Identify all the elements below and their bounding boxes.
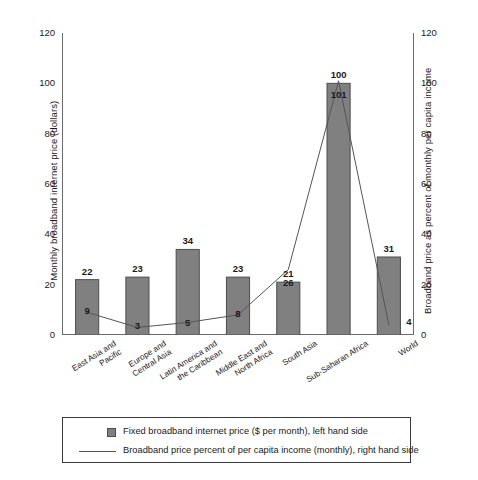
line-value-label: 101 <box>326 90 352 100</box>
line-value-label: 8 <box>225 309 251 319</box>
bar-value-label: 34 <box>168 236 208 246</box>
line-value-label: 4 <box>396 317 422 327</box>
y-axis-tick-label-left: 0 <box>50 330 55 340</box>
bar-value-label: 31 <box>369 244 409 254</box>
line-value-label: 26 <box>275 278 301 288</box>
chart-legend: Fixed broadband internet price ($ per mo… <box>62 417 411 463</box>
y-axis-tick-label-right: 40 <box>421 229 432 239</box>
y-axis-tick-label-right: 0 <box>421 330 426 340</box>
y-axis-tick-label-left: 120 <box>39 28 55 38</box>
y-axis-tick-label-right: 60 <box>421 179 432 189</box>
bar-value-label: 23 <box>117 264 157 274</box>
y-axis-tick-label-right: 20 <box>421 280 432 290</box>
bar <box>226 277 249 335</box>
legend-bar-swatch-icon <box>107 428 116 437</box>
plot-area: 0204060801001200204060801001202223342321… <box>62 33 414 335</box>
legend-line-label: Broadband price percent of per capita in… <box>123 446 419 455</box>
y-axis-tick-label-left: 100 <box>39 78 55 88</box>
line-value-label: 9 <box>74 306 100 316</box>
x-axis-category-label: World <box>330 339 420 400</box>
y-axis-tick-label-left: 20 <box>44 280 55 290</box>
plot-svg <box>62 33 414 335</box>
legend-item-line: Broadband price percent of per capita in… <box>63 442 426 460</box>
y-axis-tick-label-left: 80 <box>44 129 55 139</box>
y-axis-tick-label-left: 60 <box>44 179 55 189</box>
chart-figure: Monthly broadband internet price (dollar… <box>0 0 478 480</box>
line-value-label: 5 <box>175 318 201 328</box>
x-axis-category-label: Sub-Saharan Africa <box>280 339 370 400</box>
y-axis-tick-label-right: 120 <box>421 28 437 38</box>
line-value-label: 3 <box>124 321 150 331</box>
x-axis-category-label-line: Sub-Saharan Africa <box>280 339 370 400</box>
y-axis-tick-label-right: 100 <box>421 78 437 88</box>
bar-value-label: 100 <box>319 70 359 80</box>
bar <box>277 282 300 335</box>
y-axis-tick-label-right: 80 <box>421 129 432 139</box>
legend-item-bar: Fixed broadband internet price ($ per mo… <box>63 423 454 441</box>
legend-bar-label: Fixed broadband internet price ($ per mo… <box>123 427 368 436</box>
bar-value-label: 23 <box>218 264 258 274</box>
x-axis-category-label-line: World <box>330 339 420 400</box>
y-axis-tick-label-left: 40 <box>44 229 55 239</box>
bar-value-label: 22 <box>67 267 107 277</box>
x-axis-category-labels: East Asia andPacificEurope andCentral As… <box>62 337 414 407</box>
legend-line-swatch-icon <box>79 451 116 452</box>
